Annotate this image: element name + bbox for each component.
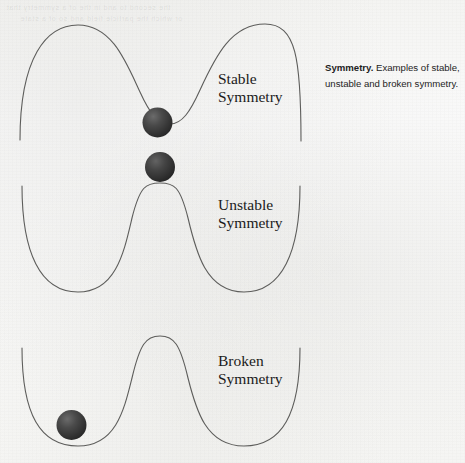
label-stable-symmetry: Stable Symmetry xyxy=(218,70,283,106)
label-unstable-line2: Symmetry xyxy=(218,214,283,232)
label-broken-symmetry: Broken Symmetry xyxy=(218,352,283,388)
ball-stable xyxy=(143,108,173,138)
scanned-page: the second to and in the of a symmetry t… xyxy=(0,0,465,463)
label-broken-line1: Broken xyxy=(218,352,264,369)
label-broken-line2: Symmetry xyxy=(218,370,283,388)
label-stable-line2: Symmetry xyxy=(218,88,283,106)
figure-caption: Symmetry. Examples of stable, unstable a… xyxy=(325,60,465,92)
label-unstable-line1: Unstable xyxy=(218,196,273,213)
ball-broken xyxy=(57,410,87,440)
label-stable-line1: Stable xyxy=(218,70,257,87)
label-unstable-symmetry: Unstable Symmetry xyxy=(218,196,283,232)
caption-lead-term: Symmetry. xyxy=(325,62,373,73)
ball-unstable xyxy=(145,152,175,182)
